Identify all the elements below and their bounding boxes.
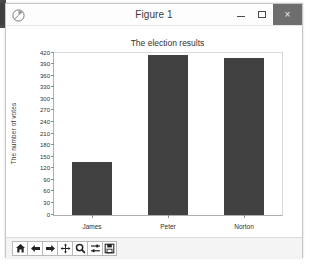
y-axis-tick-label: 390 [40,61,50,67]
configure-subplots-button[interactable] [87,241,102,256]
window-controls: × [231,4,302,26]
x-axis-tick-label: Norton [234,223,254,230]
y-axis-tick-label: 270 [40,107,50,113]
y-axis-tick-mark [51,98,54,99]
maximize-button[interactable] [251,4,273,25]
navigation-toolbar [6,237,302,258]
zoom-magnifier-button[interactable] [72,241,87,256]
configure-subplots-icon [90,243,101,254]
chart-title: The election results [53,38,282,48]
desktop-edge-strip-inner [0,3,4,25]
zoom-magnifier-icon [75,243,86,254]
minimize-button[interactable] [231,4,251,25]
bar-norton [224,58,264,215]
y-axis-tick-label: 420 [40,49,50,55]
y-axis-tick-label: 300 [40,95,50,101]
forward-arrow-button[interactable] [42,241,57,256]
y-axis-tick-mark [51,63,54,64]
x-axis-tick-mark [168,215,169,218]
y-axis-tick-label: 360 [40,72,50,78]
close-icon: × [285,10,291,20]
y-axis-label: The number of votes [8,52,20,214]
y-axis-tick-mark [51,144,54,145]
y-axis-tick-mark [51,202,54,203]
y-axis-tick-mark [51,86,54,87]
y-axis-tick-label: 90 [43,176,50,182]
y-axis-tick-mark [51,167,54,168]
figure-window: Figure 1 × The election results The numb… [5,3,303,258]
x-axis-tick-label: James [82,223,101,230]
home-button[interactable] [12,241,27,256]
y-axis-tick-mark [51,75,54,76]
close-button[interactable]: × [273,4,302,25]
y-axis-tick-mark [51,109,54,110]
back-arrow-icon [30,243,41,254]
y-axis-tick-mark [51,156,54,157]
back-arrow-button[interactable] [27,241,42,256]
pan-move-button[interactable] [57,241,72,256]
x-axis-tick-label: Peter [160,223,176,230]
forward-arrow-icon [45,243,56,254]
y-axis-tick-label: 0 [47,211,50,217]
y-axis-tick-mark [51,52,54,53]
y-axis-tick-mark [51,179,54,180]
y-axis-tick-label: 180 [40,142,50,148]
y-axis-tick-mark [51,190,54,191]
home-icon [15,243,26,254]
figure-canvas: The election results The number of votes… [6,26,302,237]
bar-peter [148,55,188,215]
y-axis-tick-label: 30 [43,199,50,205]
save-disk-button[interactable] [102,241,117,256]
minimize-icon [237,16,245,17]
y-axis-label-text: The number of votes [11,102,18,164]
y-axis-tick-mark [51,121,54,122]
plot-axes: 0306090120150180210240270300330360390420… [53,52,283,216]
y-axis-tick-label: 240 [40,118,50,124]
pan-move-icon [60,243,71,254]
y-axis-tick-label: 210 [40,130,50,136]
x-axis-tick-mark [92,215,93,218]
y-axis-tick-label: 150 [40,153,50,159]
y-axis-tick-mark [51,214,54,215]
screenshot-root: Figure 1 × The election results The numb… [0,0,311,268]
bar-james [72,162,112,215]
y-axis-tick-mark [51,133,54,134]
y-axis-tick-label: 330 [40,84,50,90]
window-titlebar[interactable]: Figure 1 × [6,4,302,26]
save-disk-icon [104,243,115,254]
maximize-icon [258,11,266,18]
x-axis-tick-mark [244,215,245,218]
y-axis-tick-label: 60 [43,188,50,194]
y-axis-tick-label: 120 [40,165,50,171]
